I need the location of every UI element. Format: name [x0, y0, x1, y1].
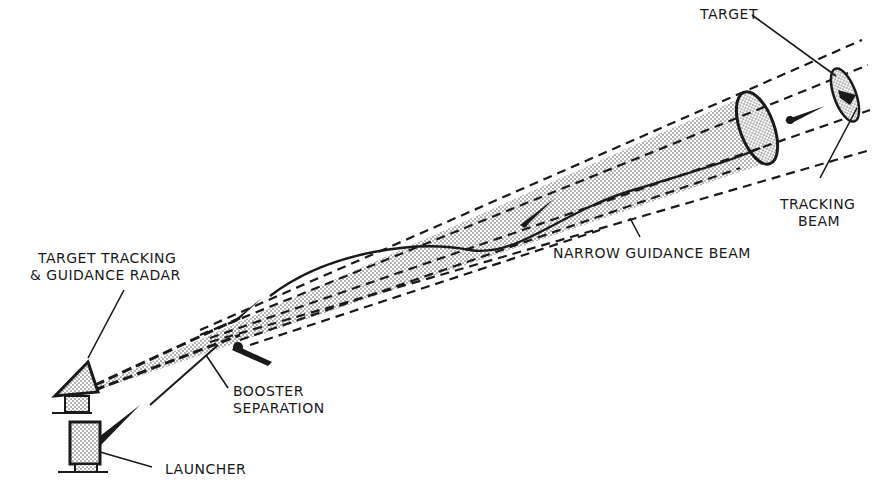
tracking-beam-leader	[820, 108, 857, 178]
booster-separation-label-1: BOOSTER	[233, 383, 304, 400]
booster-separation-label-2: SEPARATION	[233, 400, 325, 417]
radar-label-1: TARGET TRACKING	[38, 250, 176, 267]
radar-label-2: & GUIDANCE RADAR	[30, 267, 181, 284]
target-aircraft	[825, 65, 865, 125]
tracking-beam-label-2: BEAM	[798, 213, 840, 230]
launcher-leader	[100, 452, 152, 467]
radar-icon	[52, 362, 98, 413]
target-leader	[752, 15, 836, 76]
launcher-icon	[58, 422, 108, 472]
tracking-beam-label-1: TRACKING	[780, 196, 855, 213]
guidance-beam-leader	[630, 218, 640, 237]
launcher-label: LAUNCHER	[165, 461, 246, 478]
radar-leader	[88, 290, 124, 358]
target-label: TARGET	[700, 6, 758, 23]
booster-leader	[206, 355, 228, 388]
narrow-guidance-beam-label: NARROW GUIDANCE BEAM	[553, 245, 751, 262]
